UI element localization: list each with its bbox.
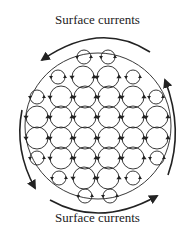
convection-cell	[47, 106, 74, 128]
convection-cell	[143, 127, 170, 149]
convection-cell	[124, 171, 142, 185]
convection-cell	[101, 189, 119, 203]
convection-cell	[47, 86, 74, 108]
convection-cell	[94, 66, 121, 88]
convection-cell	[119, 86, 146, 108]
convection-cell	[71, 86, 98, 108]
convection-cell	[47, 147, 74, 169]
convection-cell	[119, 127, 146, 149]
surface-current-arrow-right	[165, 80, 175, 175]
convection-cell	[95, 106, 122, 128]
convection-cell	[71, 106, 98, 128]
surface-currents-label-bottom: Surface currents	[0, 210, 195, 226]
convection-cell	[95, 86, 122, 108]
convection-cell	[49, 70, 67, 84]
convection-cell	[75, 50, 93, 64]
convection-cell	[99, 50, 117, 64]
convection-cell	[119, 106, 146, 128]
convection-cell	[124, 70, 142, 84]
convection-cell	[71, 147, 98, 169]
convection-cell	[69, 66, 96, 88]
convection-cell	[94, 167, 121, 189]
convection-cell	[23, 106, 50, 128]
surface-current-arrow-top	[42, 38, 150, 60]
convection-cell	[95, 127, 122, 149]
convection-cell	[71, 127, 98, 149]
convection-cell	[28, 90, 46, 104]
convection-cell	[119, 147, 146, 169]
convection-diagram	[0, 0, 195, 231]
convection-cell	[70, 167, 97, 189]
convection-cell	[76, 189, 94, 203]
convection-cell	[143, 106, 170, 128]
convection-cell	[47, 127, 74, 149]
convection-cell	[148, 151, 166, 165]
convection-cell	[95, 147, 122, 169]
